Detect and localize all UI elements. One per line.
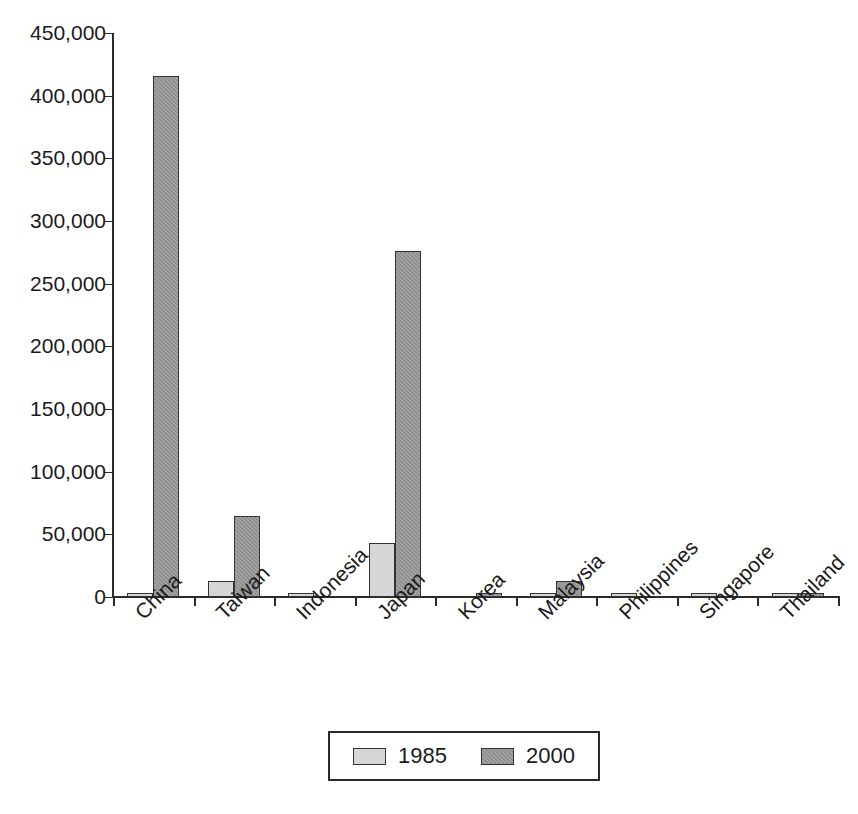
legend-label-2000: 2000 — [526, 745, 575, 767]
x-tick-mark — [757, 596, 759, 606]
y-tick-label: 100,000 — [30, 461, 106, 482]
legend-swatch-2000 — [481, 748, 514, 765]
y-tick-label: 250,000 — [30, 273, 106, 294]
legend-entry-2000: 2000 — [481, 745, 575, 767]
y-tick-label: 300,000 — [30, 210, 106, 231]
legend-entry-1985: 1985 — [353, 745, 447, 767]
x-tick-mark — [677, 596, 679, 606]
plot-area — [113, 33, 838, 597]
x-tick-mark — [274, 596, 276, 606]
y-tick-label: 150,000 — [30, 398, 106, 419]
x-tick-mark — [194, 596, 196, 606]
y-tick-label: 450,000 — [30, 22, 106, 43]
y-tick-label: 0 — [94, 586, 106, 607]
bar-chart: 050,000100,000150,000200,000250,000300,0… — [0, 0, 858, 814]
legend-swatch-1985 — [353, 748, 386, 765]
legend: 19852000 — [328, 731, 600, 781]
x-tick-mark — [838, 596, 840, 606]
legend-label-1985: 1985 — [398, 745, 447, 767]
x-tick-mark — [113, 596, 115, 606]
y-tick-label: 350,000 — [30, 147, 106, 168]
y-tick-label: 200,000 — [30, 335, 106, 356]
x-tick-mark — [355, 596, 357, 606]
x-tick-mark — [435, 596, 437, 606]
x-tick-mark — [596, 596, 598, 606]
x-tick-mark — [516, 596, 518, 606]
bar-japan-2000 — [395, 251, 421, 597]
y-tick-label: 50,000 — [42, 523, 106, 544]
bar-china-2000 — [153, 76, 179, 597]
y-tick-label: 400,000 — [30, 85, 106, 106]
